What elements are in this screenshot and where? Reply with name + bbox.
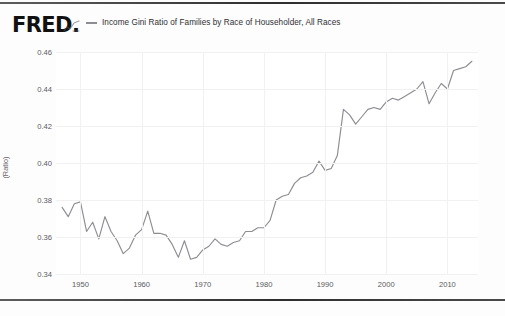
plot-area[interactable] (56, 52, 478, 274)
x-axis-tick-label: 2000 (378, 280, 395, 289)
x-axis-tick-label: 1990 (317, 280, 334, 289)
gridline-horizontal (56, 52, 478, 53)
y-axis-tick-labels: 0.340.360.380.400.420.440.46 (20, 52, 52, 274)
bottom-divider-rule (0, 299, 505, 301)
gridline-horizontal (56, 274, 478, 275)
x-axis-tick-labels: 1950196019701980199020002010 (56, 280, 478, 292)
fred-chart-page: FRED. Income Gini Ratio of Families by R… (0, 0, 505, 316)
y-axis-tick-label: 0.34 (24, 270, 52, 279)
gridline-vertical (325, 52, 326, 274)
legend-line-marker-icon (86, 22, 97, 24)
gridline-vertical (386, 52, 387, 274)
gridline-vertical (142, 52, 143, 274)
legend-series-label: Income Gini Ratio of Families by Race of… (102, 18, 340, 27)
chart-squiggle-icon (63, 20, 80, 34)
series-path (62, 61, 472, 259)
y-axis-tick-label: 0.42 (24, 122, 52, 131)
gridline-horizontal (56, 200, 478, 201)
gridline-vertical (80, 52, 81, 274)
gridline-horizontal (56, 126, 478, 127)
y-axis-title: (Ratio) (1, 156, 10, 178)
y-axis-tick-label: 0.44 (24, 85, 52, 94)
gridline-vertical (447, 52, 448, 274)
gridline-horizontal (56, 163, 478, 164)
x-axis-tick-label: 1980 (255, 280, 272, 289)
gridline-vertical (203, 52, 204, 274)
y-axis-tick-label: 0.46 (24, 48, 52, 57)
x-axis-tick-label: 1960 (133, 280, 150, 289)
gridline-horizontal (56, 237, 478, 238)
gridline-horizontal (56, 89, 478, 90)
y-axis-tick-label: 0.40 (24, 159, 52, 168)
chart-legend[interactable]: Income Gini Ratio of Families by Race of… (86, 18, 340, 27)
y-axis-tick-label: 0.36 (24, 233, 52, 242)
x-axis-tick-label: 2010 (439, 280, 456, 289)
y-axis-tick-label: 0.38 (24, 196, 52, 205)
x-axis-tick-label: 1950 (72, 280, 89, 289)
x-axis-tick-label: 1970 (194, 280, 211, 289)
gridline-vertical (264, 52, 265, 274)
chart-header: FRED. Income Gini Ratio of Families by R… (0, 14, 505, 42)
chart-body: (Ratio) 0.340.360.380.400.420.440.46 195… (0, 44, 505, 294)
top-divider-rule (0, 2, 505, 4)
